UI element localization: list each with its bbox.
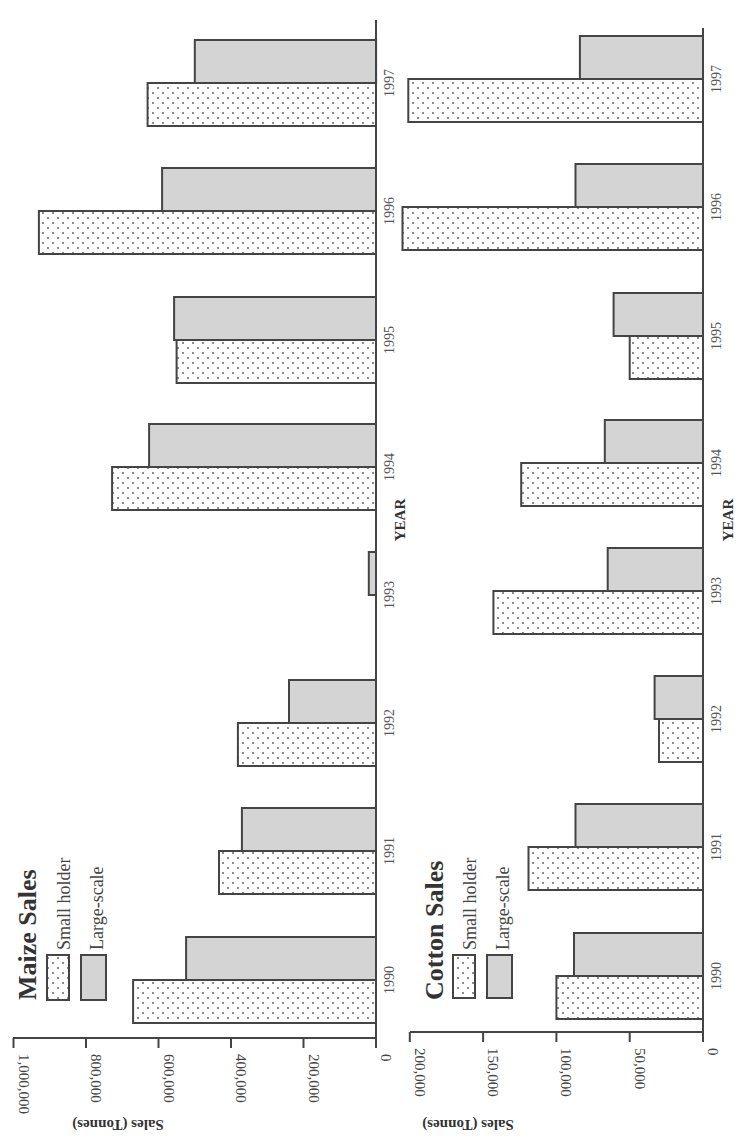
cotton-year-label: 1993	[709, 577, 724, 605]
cotton-bar-large-scale-1994	[605, 420, 703, 463]
cotton-legend-title: Cotton Sales	[420, 861, 449, 1000]
cotton-bar-large-scale-1997	[580, 36, 703, 79]
cotton-bar-large-scale-1992	[655, 676, 703, 719]
cotton-tick-label: 100,000	[558, 1048, 574, 1097]
maize-bar-small-holder-1990	[133, 980, 376, 1023]
maize-tick-label: 600,000	[161, 1054, 177, 1103]
maize-bar-small-holder-1994	[112, 467, 376, 510]
cotton-bar-large-scale-1993	[608, 548, 703, 591]
maize-legend: Maize Sales Small holder Large-scale	[13, 858, 107, 1001]
cotton-bar-small-holder-1994	[521, 463, 703, 506]
maize-year-label: 1993	[382, 581, 397, 609]
maize-bar-small-holder-1997	[148, 83, 376, 126]
maize-legend-title: Maize Sales	[13, 869, 42, 1000]
chart-figure: 0200,000400,000600,000800,0001,000,000 1…	[0, 0, 738, 1145]
maize-bar-large-scale-1992	[289, 680, 376, 723]
maize-tick-label: 0	[378, 1054, 394, 1062]
maize-bar-large-scale-1996	[162, 168, 376, 211]
maize-ylabel: Sales (Tonnes)	[72, 1116, 164, 1133]
maize-bar-small-holder-1996	[39, 211, 376, 254]
cotton-year-label: 1991	[709, 833, 724, 861]
maize-bar-small-holder-1991	[219, 851, 376, 894]
maize-year-label: 1996	[382, 197, 397, 225]
cotton-legend: Cotton Sales Small holder Large-scale	[420, 858, 513, 1001]
maize-year-label: 1990	[382, 966, 397, 994]
cotton-ylabel: Sales (Tonnes)	[422, 1116, 514, 1133]
maize-xlabel: YEAR	[392, 499, 408, 542]
cotton-tick-label: 50,000	[632, 1048, 648, 1089]
maize-bar-large-scale-1991	[242, 808, 376, 851]
cotton-xlabel: YEAR	[720, 499, 736, 542]
cotton-legend-swatch-large-scale	[487, 955, 512, 998]
maize-value-ticks: 0200,000400,000600,000800,0001,000,000	[14, 1038, 395, 1114]
maize-year-label: 1997	[382, 69, 397, 97]
cotton-year-label: 1990	[709, 962, 724, 990]
maize-legend-label-large-scale: Large-scale	[87, 866, 107, 950]
maize-legend-swatch-small-holder	[47, 955, 69, 1000]
cotton-tick-label: 200,000	[412, 1048, 428, 1097]
maize-chart-panel: 0200,000400,000600,000800,0001,000,000 1…	[13, 20, 408, 1133]
cotton-year-label: 1997	[709, 65, 724, 93]
cotton-year-label: 1995	[709, 322, 724, 350]
cotton-bar-small-holder-1993	[493, 591, 703, 634]
maize-tick-label: 800,000	[88, 1054, 104, 1103]
maize-bar-large-scale-1995	[174, 297, 376, 340]
cotton-legend-swatch-small-holder	[453, 955, 475, 998]
cotton-bar-small-holder-1990	[556, 976, 703, 1019]
rotated-bar-chart-svg: 0200,000400,000600,000800,0001,000,000 1…	[0, 0, 738, 1145]
cotton-bar-small-holder-1992	[659, 719, 703, 762]
maize-bar-small-holder-1995	[177, 340, 376, 383]
maize-bar-large-scale-1993	[369, 552, 376, 595]
cotton-bar-large-scale-1996	[576, 164, 704, 207]
cotton-bar-small-holder-1996	[403, 207, 704, 250]
cotton-chart-panel: 050,000100,000150,000200,000 19901991199…	[403, 28, 737, 1133]
maize-legend-swatch-large-scale	[81, 955, 106, 1000]
maize-year-label: 1991	[382, 837, 397, 865]
cotton-legend-label-small-holder: Small holder	[460, 858, 480, 951]
maize-bar-large-scale-1994	[149, 424, 376, 467]
maize-year-label: 1994	[382, 453, 397, 481]
cotton-tick-label: 0	[705, 1048, 721, 1056]
cotton-year-label: 1996	[709, 193, 724, 221]
cotton-year-label: 1994	[709, 449, 724, 477]
cotton-year-label: 1992	[709, 705, 724, 733]
cotton-tick-label: 150,000	[485, 1048, 501, 1097]
maize-legend-label-small-holder: Small holder	[54, 858, 74, 951]
cotton-bar-small-holder-1995	[630, 336, 703, 379]
cotton-bar-large-scale-1990	[574, 933, 703, 976]
maize-bar-large-scale-1997	[195, 40, 376, 83]
maize-year-label: 1995	[382, 326, 397, 354]
cotton-legend-label-large-scale: Large-scale	[493, 866, 513, 950]
maize-tick-label: 400,000	[233, 1054, 249, 1103]
cotton-bar-large-scale-1995	[614, 293, 703, 336]
maize-tick-label: 1,000,000	[16, 1054, 32, 1114]
cotton-bar-small-holder-1991	[529, 847, 704, 890]
maize-bar-small-holder-1992	[238, 723, 376, 766]
cotton-bar-small-holder-1997	[408, 79, 703, 122]
cotton-bar-large-scale-1991	[576, 804, 704, 847]
cotton-value-ticks: 050,000100,000150,000200,000	[410, 1032, 721, 1097]
maize-bar-large-scale-1990	[186, 937, 376, 980]
maize-tick-label: 200,000	[306, 1054, 322, 1103]
maize-year-label: 1992	[382, 709, 397, 737]
